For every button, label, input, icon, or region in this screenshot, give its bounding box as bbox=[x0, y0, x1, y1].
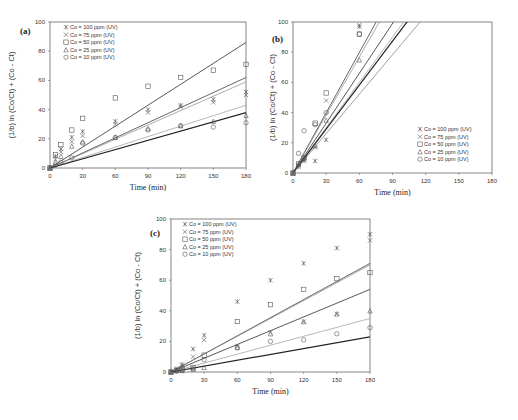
data-point-asterisk bbox=[324, 138, 328, 142]
data-point-triangle bbox=[70, 144, 74, 148]
legend: Co = 100 ppm (UV)Co = 75 ppm (UV)Co = 50… bbox=[64, 24, 118, 60]
y-tick-label: 0 bbox=[42, 165, 46, 171]
y-axis-label: (1/b) ln (Co/Ct) + (Co - Ct) bbox=[7, 51, 16, 138]
legend-entry: Co = 25 ppm (UV) bbox=[189, 244, 234, 250]
data-point-square bbox=[178, 75, 182, 79]
legend-entry: Co = 25 ppm (UV) bbox=[424, 149, 469, 155]
legend-entry: Co = 50 ppm (UV) bbox=[189, 236, 234, 242]
data-point-asterisk bbox=[268, 278, 272, 282]
data-point-square bbox=[70, 128, 74, 132]
data-point-circle bbox=[335, 332, 339, 336]
fit-lines bbox=[50, 42, 246, 168]
data-point-circle bbox=[313, 122, 317, 126]
x-axis-label: Time (min) bbox=[252, 387, 289, 396]
x-tick-label: 150 bbox=[208, 173, 219, 179]
legend-entry: Co = 75 ppm (UV) bbox=[424, 134, 469, 140]
legend-entry: Co = 50 ppm (UV) bbox=[424, 141, 469, 147]
data-point-circle bbox=[268, 339, 272, 343]
data-point-asterisk bbox=[313, 159, 317, 163]
legend-marker-circle bbox=[183, 252, 187, 256]
fit-line bbox=[50, 42, 246, 168]
legend-entry: Co = 100 ppm (UV) bbox=[189, 221, 237, 227]
data-point-circle bbox=[302, 129, 306, 133]
y-tick-label: 100 bbox=[278, 19, 289, 25]
data-point-asterisk bbox=[70, 135, 74, 139]
fit-line bbox=[171, 289, 370, 372]
data-point-x bbox=[202, 338, 206, 342]
legend-marker-triangle bbox=[183, 245, 187, 249]
legend-entry: Co = 10 ppm (UV) bbox=[70, 54, 115, 60]
x-tick-label: 90 bbox=[267, 377, 274, 383]
legend-marker-x bbox=[64, 33, 68, 37]
data-point-circle bbox=[357, 32, 361, 36]
legend-marker-circle bbox=[64, 55, 68, 59]
data-point-asterisk bbox=[191, 347, 195, 351]
y-tick-label: 0 bbox=[285, 170, 289, 176]
x-axis-label: Time (min) bbox=[130, 183, 167, 192]
panel-label: (a) bbox=[20, 26, 31, 36]
x-tick-label: 0 bbox=[291, 178, 295, 184]
legend-entry: Co = 100 ppm (UV) bbox=[424, 126, 472, 132]
y-tick-label: 20 bbox=[281, 140, 288, 146]
legend-marker-triangle bbox=[64, 48, 68, 52]
y-tick-label: 80 bbox=[38, 48, 45, 54]
x-tick-label: 30 bbox=[323, 178, 330, 184]
y-axis-label: (1/b) ln (Co/Ct) + (Co - Ct) bbox=[268, 54, 277, 141]
y-tick-label: 40 bbox=[38, 107, 45, 113]
y-axis-label: (1/b) ln (Co/Ct) + (Co - Ct) bbox=[133, 252, 142, 339]
fit-line bbox=[293, 0, 492, 173]
data-point-circle bbox=[301, 338, 305, 342]
data-point-asterisk bbox=[80, 129, 84, 133]
data-point-circle bbox=[296, 151, 300, 155]
fit-line bbox=[171, 318, 370, 372]
x-tick-label: 120 bbox=[176, 173, 187, 179]
panel-label: (b) bbox=[272, 34, 283, 44]
legend: Co = 100 ppm (UV)Co = 75 ppm (UV)Co = 50… bbox=[183, 221, 237, 257]
x-tick-label: 30 bbox=[79, 173, 86, 179]
fit-line bbox=[293, 0, 492, 173]
data-point-triangle bbox=[59, 154, 63, 158]
legend-marker-circle bbox=[418, 157, 422, 161]
data-point-square bbox=[113, 96, 117, 100]
data-point-square bbox=[59, 142, 63, 146]
x-tick-label: 180 bbox=[241, 173, 252, 179]
data-point-x bbox=[80, 134, 84, 138]
panel-label: (c) bbox=[150, 228, 160, 238]
y-tick-label: 20 bbox=[38, 136, 45, 142]
legend-marker-asterisk bbox=[183, 222, 187, 226]
x-tick-label: 120 bbox=[421, 178, 432, 184]
fit-line bbox=[293, 0, 492, 173]
data-point-x bbox=[324, 98, 328, 102]
fit-line bbox=[50, 82, 246, 168]
x-tick-label: 0 bbox=[169, 377, 173, 383]
x-tick-label: 180 bbox=[487, 178, 498, 184]
data-point-asterisk bbox=[335, 246, 339, 250]
data-point-asterisk bbox=[235, 299, 239, 303]
legend-entry: Co = 10 ppm (UV) bbox=[189, 251, 234, 257]
y-tick-label: 20 bbox=[159, 338, 166, 344]
fit-line bbox=[50, 113, 246, 168]
y-tick-label: 40 bbox=[159, 308, 166, 314]
legend-entry: Co = 75 ppm (UV) bbox=[189, 229, 234, 235]
x-tick-label: 150 bbox=[454, 178, 465, 184]
x-tick-label: 60 bbox=[234, 377, 241, 383]
data-point-square bbox=[324, 91, 328, 95]
x-tick-label: 120 bbox=[299, 377, 310, 383]
panel-b-chart: 0306090120150180020406080100Time (min)(1… bbox=[268, 0, 498, 197]
data-point-square bbox=[301, 287, 305, 291]
x-axis-label: Time (min) bbox=[374, 188, 411, 197]
data-point-square bbox=[268, 302, 272, 306]
legend-marker-triangle bbox=[418, 150, 422, 154]
legend-marker-x bbox=[183, 230, 187, 234]
x-tick-label: 180 bbox=[365, 377, 376, 383]
x-tick-label: 60 bbox=[112, 173, 119, 179]
data-point-x bbox=[191, 355, 195, 359]
data-point-circle bbox=[211, 125, 215, 129]
fit-line bbox=[293, 0, 492, 173]
fit-line bbox=[293, 0, 492, 173]
fit-line bbox=[50, 105, 246, 168]
fit-line bbox=[293, 0, 492, 173]
legend-marker-x bbox=[418, 135, 422, 139]
data-point-square bbox=[146, 84, 150, 88]
y-tick-label: 100 bbox=[156, 216, 167, 222]
